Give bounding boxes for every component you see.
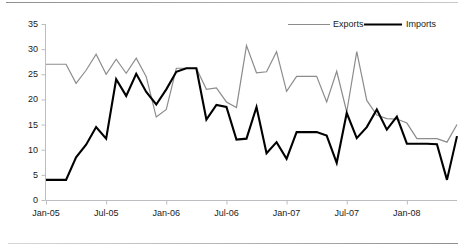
y-tick-label: 10 xyxy=(22,145,38,155)
y-tick-label: 5 xyxy=(22,170,38,180)
data-series-group xyxy=(46,46,457,180)
x-tick-label: Jul-07 xyxy=(324,208,370,218)
y-tick-marks xyxy=(42,25,46,201)
y-tick-label: 15 xyxy=(22,120,38,130)
y-tick-label: 35 xyxy=(22,19,38,29)
y-tick-label: 25 xyxy=(22,69,38,79)
legend-item-exports[interactable]: Exports xyxy=(333,19,364,29)
series-line-imports xyxy=(46,68,457,180)
x-tick-marks xyxy=(47,201,408,205)
axis-lines xyxy=(46,24,458,201)
legend-item-imports[interactable]: Imports xyxy=(406,19,436,29)
y-tick-label: 0 xyxy=(22,195,38,205)
x-tick-label: Jan-07 xyxy=(264,208,310,218)
x-tick-label: Jul-05 xyxy=(83,208,129,218)
x-tick-label: Jul-06 xyxy=(203,208,249,218)
x-tick-label: Jan-05 xyxy=(23,208,69,218)
y-tick-label: 20 xyxy=(22,94,38,104)
x-tick-label: Jan-08 xyxy=(384,208,430,218)
y-tick-label: 30 xyxy=(22,44,38,54)
chart-figure: 05101520253035 Jan-05Jul-05Jan-06Jul-06J… xyxy=(0,0,466,248)
x-tick-label: Jan-06 xyxy=(143,208,189,218)
